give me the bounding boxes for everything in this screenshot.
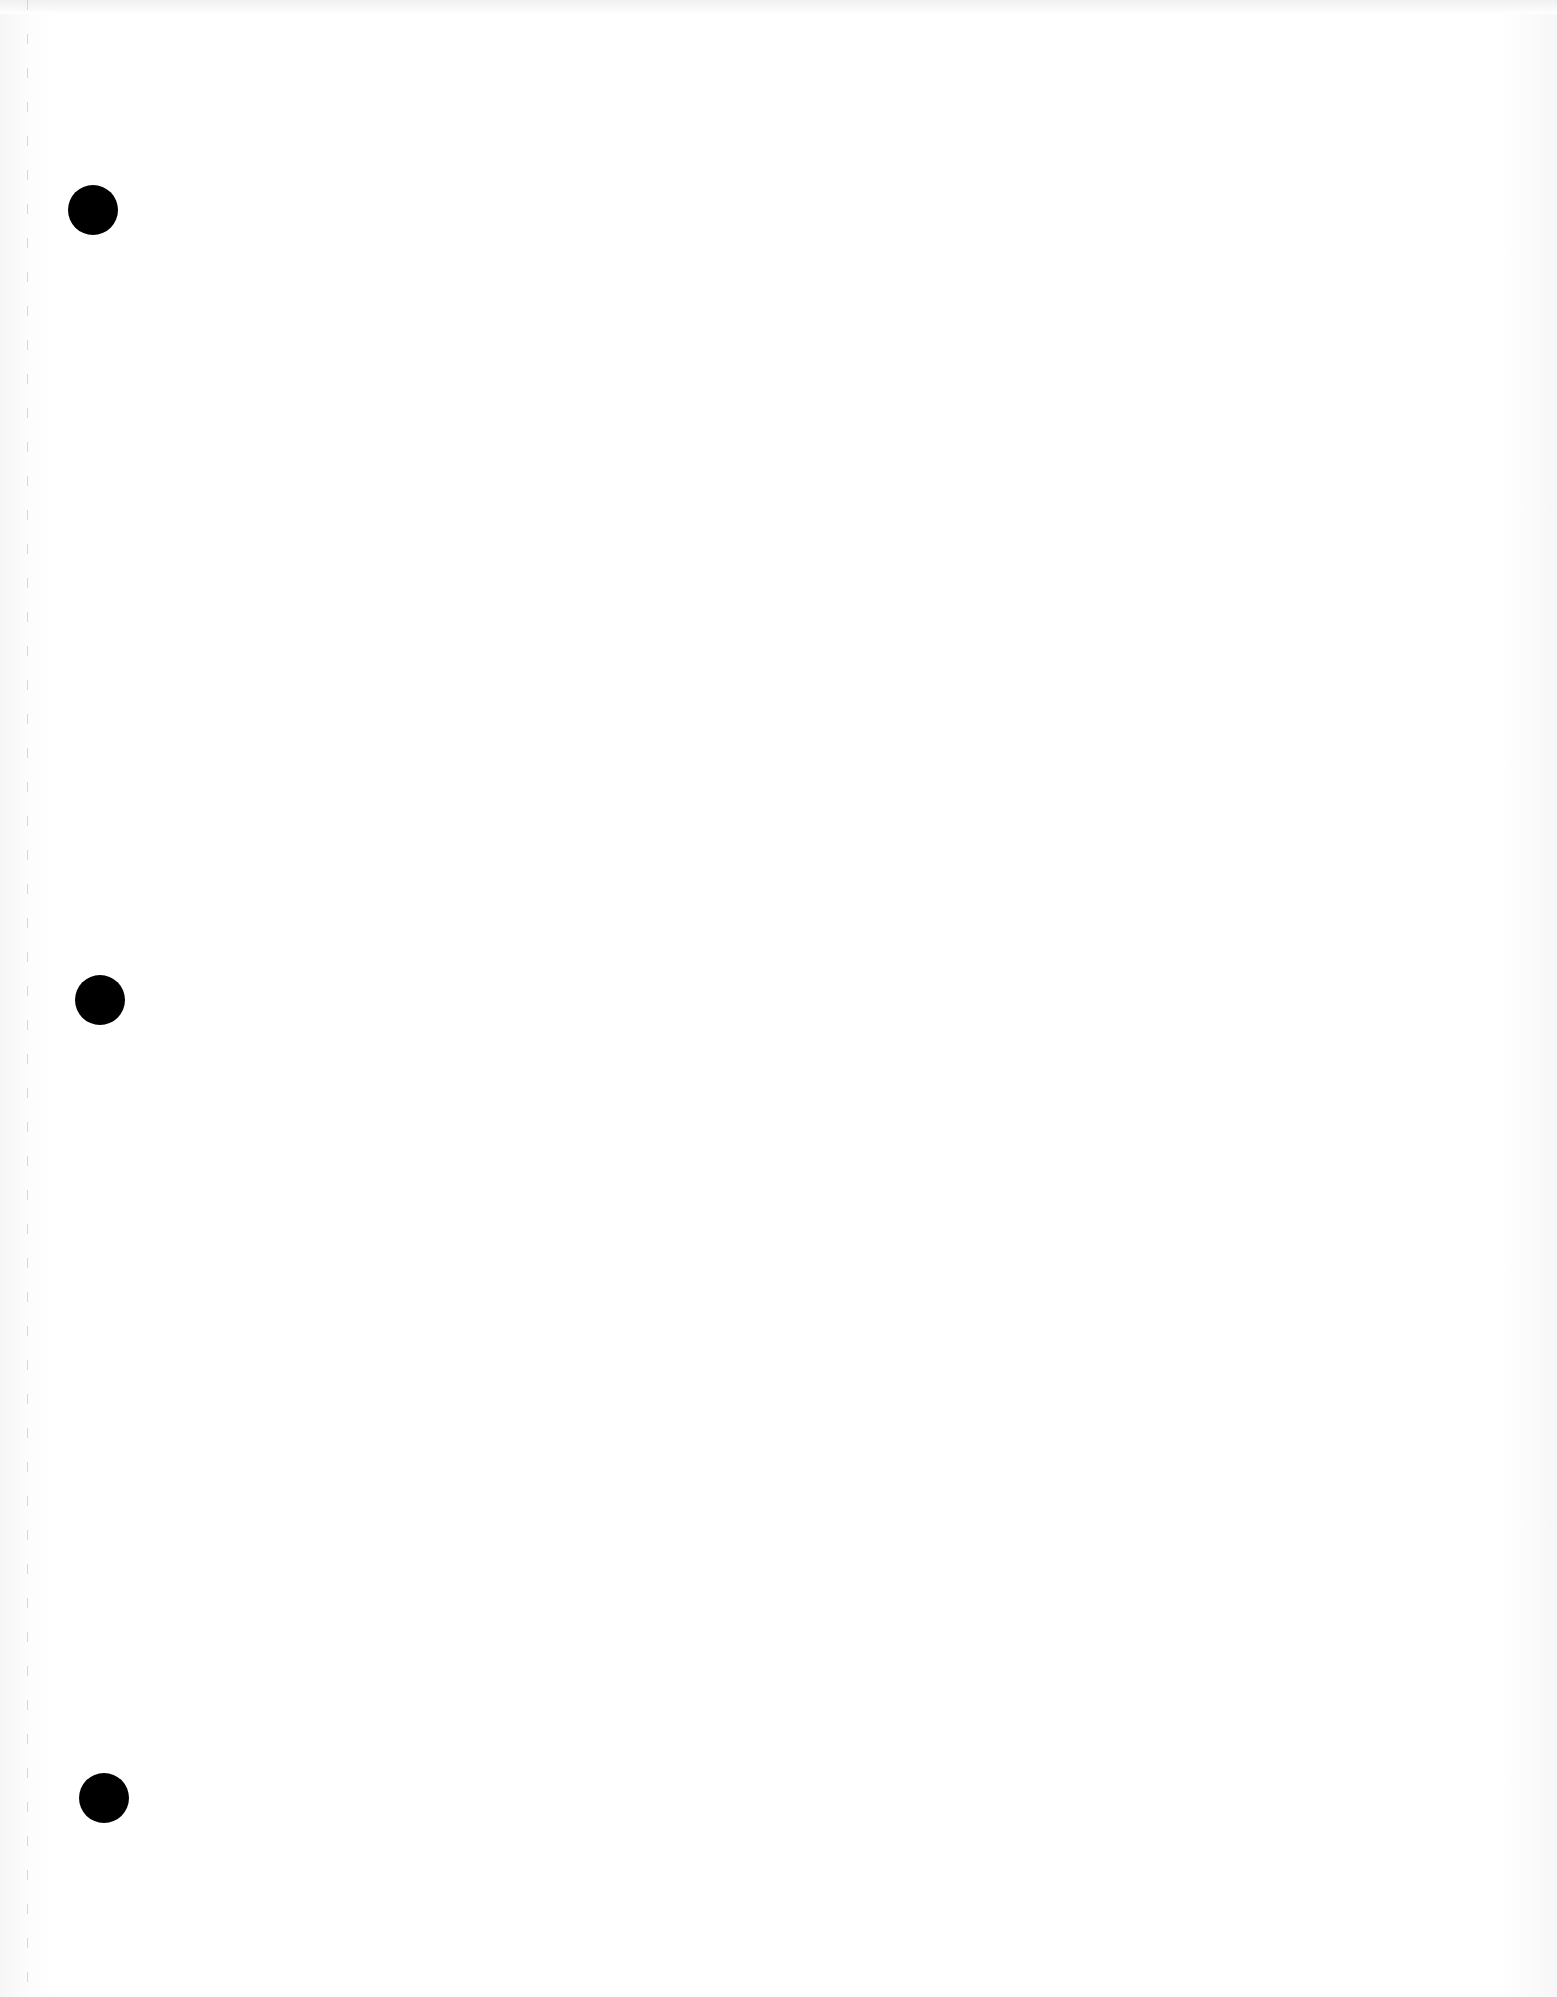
- perforation-line: [27, 0, 28, 1997]
- punch-hole-top: [68, 185, 118, 235]
- punch-hole-middle: [75, 975, 125, 1025]
- blank-page: [0, 0, 1557, 1997]
- punch-hole-bottom: [79, 1773, 129, 1823]
- scan-edge-shadow: [0, 0, 1557, 14]
